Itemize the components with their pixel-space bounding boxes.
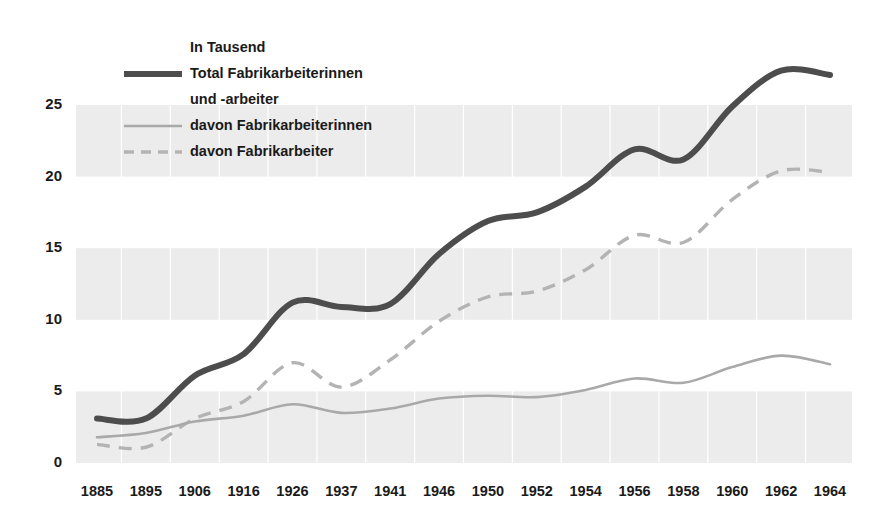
x-axis-tick-label: 1906 [179,483,211,499]
y-axis-tick-label: 5 [54,381,62,398]
x-axis-tick-label: 1950 [472,483,504,499]
x-axis-tick-label: 1962 [765,483,797,499]
x-axis-tick-label: 1958 [667,483,699,499]
x-axis-tick-label: 1946 [423,483,455,499]
x-axis-tick-label: 1926 [276,483,308,499]
y-axis-tick-label: 15 [45,238,62,255]
legend-label-total-line1: Total Fabrikarbeiterinnen [190,65,363,81]
legend-label-total-line2: und -arbeiter [190,91,279,107]
x-axis-tick-label: 1960 [716,483,748,499]
legend-label-women: davon Fabrikarbeiterinnen [190,117,372,133]
x-axis-tick-label: 1895 [130,483,162,499]
legend-unit-label: In Tausend [190,39,265,55]
x-axis-tick-label: 1885 [81,483,113,499]
x-axis-tick-label: 1937 [325,483,357,499]
x-axis-tick-label: 1954 [570,483,602,499]
y-axis-tick-label: 0 [54,453,62,470]
legend-label-men: davon Fabrikarbeiter [190,143,334,159]
line-chart: 2520151050 18851895190619161926193719411… [0,0,870,514]
y-axis-tick-label: 25 [45,95,62,112]
y-axis-tick-label: 20 [45,167,62,184]
x-axis-tick-label: 1941 [374,483,406,499]
x-axis-tick-label: 1956 [618,483,650,499]
x-axis-tick-label: 1916 [227,483,259,499]
x-axis-tick-label: 1964 [814,483,846,499]
x-axis-tick-label: 1952 [521,483,553,499]
y-axis-tick-label: 10 [45,310,62,327]
chart-container: 2520151050 18851895190619161926193719411… [0,0,870,514]
